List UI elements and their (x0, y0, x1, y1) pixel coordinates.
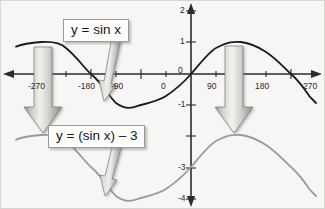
figure-canvas: -270 -180 -90 0 90 180 270 2 1 0 -1 -3 -… (0, 0, 325, 209)
x-axis-arrow-left (3, 70, 14, 78)
x-tick-label-neg180: -180 (78, 82, 95, 91)
x-tick-label-pos90: 90 (207, 82, 216, 91)
frame-bottom (0, 208, 325, 209)
y-tick-label-1: 1 (180, 37, 185, 46)
x-tick-label-zero-right: 0 (161, 82, 166, 91)
x-tick-label-neg270: -270 (28, 82, 45, 91)
shift-arrow-right (215, 46, 253, 133)
equation-label-sine-shifted: y = (sin x) – 3 (48, 125, 145, 148)
x-axis-arrow-right (311, 70, 322, 78)
frame-top (0, 0, 325, 1)
y-axis (186, 3, 196, 207)
coordinate-plane (0, 0, 325, 209)
y-tick-label-neg4: -4 (178, 194, 186, 203)
equation-label-sine: y = sin x (63, 19, 129, 42)
y-tick-label-0: 0 (178, 66, 183, 75)
frame-left (0, 0, 1, 209)
y-tick-label-2: 2 (180, 6, 185, 15)
y-tick-label-neg3: -3 (178, 163, 186, 172)
y-axis-arrow-down (187, 196, 195, 207)
x-tick-label-pos270: 270 (303, 82, 317, 91)
callout-pointer-sine-shifted (100, 143, 122, 196)
x-tick-label-pos180: 180 (255, 82, 269, 91)
callout-pointer-sine (99, 37, 121, 101)
y-axis-arrow-up (187, 3, 195, 14)
y-tick-label-neg1: -1 (178, 100, 186, 109)
x-tick-label-neg90: -90 (111, 82, 123, 91)
